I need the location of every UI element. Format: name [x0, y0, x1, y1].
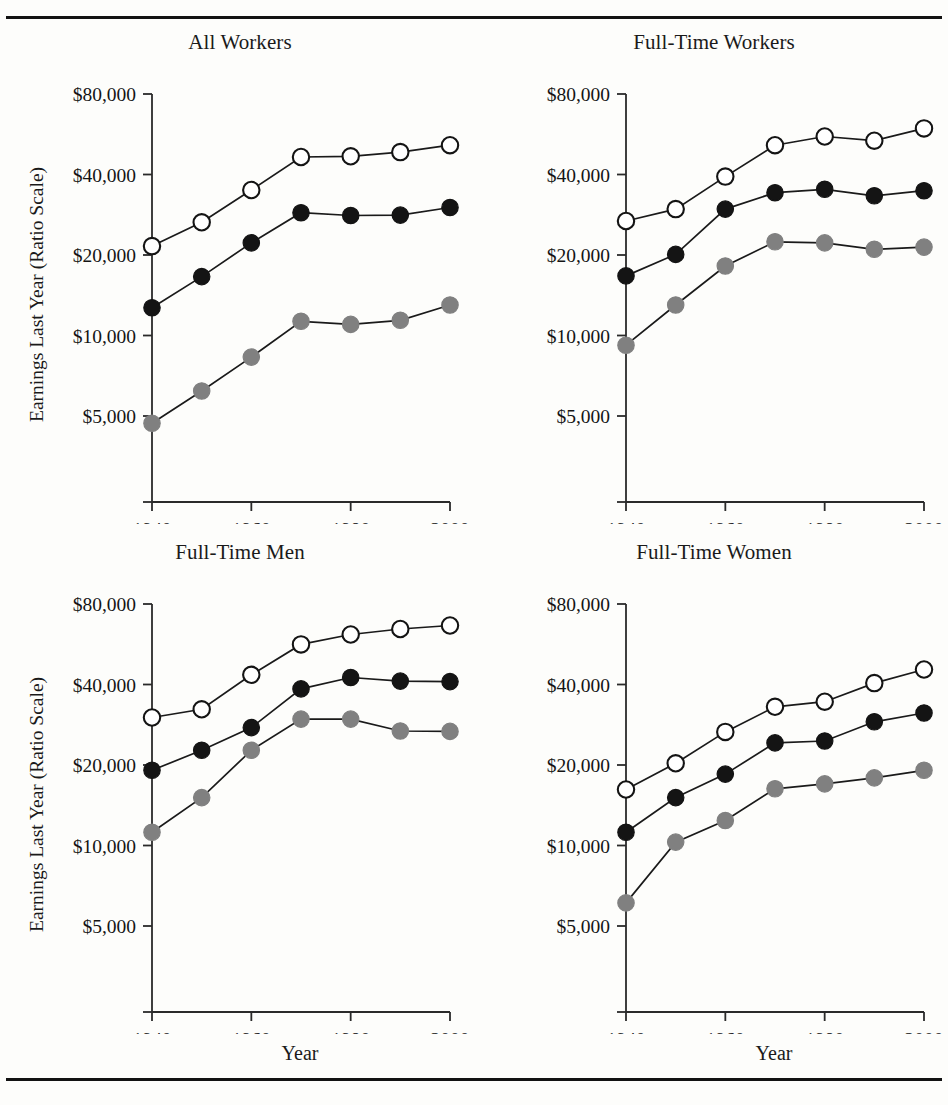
data-point-marker: [866, 675, 882, 691]
plot-area: $80,000$40,000$20,000$10,000$5,000194019…: [40, 54, 474, 524]
data-point-marker: [343, 626, 359, 642]
data-point-marker: [618, 895, 634, 911]
data-point-marker: [144, 824, 160, 840]
data-point-marker: [717, 168, 733, 184]
data-point-marker: [668, 755, 684, 771]
data-point-marker: [392, 312, 408, 328]
data-point-marker: [717, 812, 733, 828]
data-point-marker: [243, 719, 259, 735]
bottom-horizontal-rule: [6, 1078, 942, 1081]
data-point-marker: [668, 834, 684, 850]
y-tick-label: $10,000: [547, 836, 610, 857]
plot-area: $80,000$40,000$20,000$10,000$5,000194019…: [514, 564, 948, 1034]
x-tick-label: 1980: [805, 1029, 844, 1034]
data-point-marker: [767, 735, 783, 751]
x-tick-label: 2000: [431, 1029, 470, 1034]
y-tick-label: $40,000: [73, 675, 136, 696]
data-point-marker: [194, 214, 210, 230]
data-point-marker: [866, 714, 882, 730]
data-point-marker: [442, 199, 458, 215]
x-axis-label: Year: [624, 1042, 924, 1065]
data-point-marker: [817, 733, 833, 749]
data-point-marker: [618, 268, 634, 284]
data-point-marker: [442, 673, 458, 689]
data-point-marker: [717, 258, 733, 274]
y-tick-label: $5,000: [82, 406, 136, 427]
data-point-marker: [618, 213, 634, 229]
data-point-marker: [767, 185, 783, 201]
data-point-marker: [866, 133, 882, 149]
data-point-marker: [392, 723, 408, 739]
data-point-marker: [618, 824, 634, 840]
panel-title: Full-Time Women: [504, 540, 924, 565]
top-horizontal-rule: [6, 16, 942, 19]
x-tick-label: 1940: [607, 519, 646, 524]
data-point-marker: [343, 148, 359, 164]
data-point-marker: [243, 742, 259, 758]
y-tick-label: $5,000: [82, 916, 136, 937]
x-tick-label: 1940: [133, 1029, 172, 1034]
data-point-marker: [767, 137, 783, 153]
y-tick-label: $20,000: [73, 245, 136, 266]
data-point-marker: [668, 789, 684, 805]
y-tick-label: $20,000: [547, 245, 610, 266]
data-point-marker: [343, 711, 359, 727]
y-tick-label: $40,000: [547, 165, 610, 186]
data-point-marker: [144, 300, 160, 316]
y-tick-label: $40,000: [547, 675, 610, 696]
data-point-marker: [194, 701, 210, 717]
data-point-marker: [618, 337, 634, 353]
data-point-marker: [392, 207, 408, 223]
plot-area: $80,000$40,000$20,000$10,000$5,000194019…: [40, 564, 474, 1034]
x-axis-label: Year: [150, 1042, 450, 1065]
y-tick-label: $80,000: [73, 594, 136, 615]
data-point-marker: [817, 235, 833, 251]
data-point-marker: [392, 673, 408, 689]
data-point-marker: [243, 667, 259, 683]
data-point-marker: [392, 144, 408, 160]
data-point-marker: [866, 241, 882, 257]
data-point-marker: [194, 268, 210, 284]
data-point-marker: [144, 238, 160, 254]
chart-svg: $80,000$40,000$20,000$10,000$5,000194019…: [40, 564, 474, 1034]
y-tick-label: $10,000: [73, 836, 136, 857]
chart-svg: $80,000$40,000$20,000$10,000$5,000194019…: [514, 54, 948, 524]
data-point-marker: [618, 781, 634, 797]
panel-full-time-men: Full-Time Men Earnings Last Year (Ratio …: [0, 532, 474, 1072]
x-tick-label: 1960: [706, 519, 745, 524]
data-point-marker: [194, 383, 210, 399]
data-point-marker: [144, 709, 160, 725]
data-point-marker: [668, 297, 684, 313]
data-point-marker: [243, 235, 259, 251]
data-point-marker: [243, 182, 259, 198]
x-tick-label: 1980: [805, 519, 844, 524]
data-point-marker: [717, 724, 733, 740]
panel-full-time-workers: Full-Time Workers $80,000$40,000$20,000$…: [474, 22, 948, 532]
data-point-marker: [916, 661, 932, 677]
data-point-marker: [717, 201, 733, 217]
panel-title: Full-Time Men: [30, 540, 450, 565]
x-tick-label: 1940: [133, 519, 172, 524]
data-point-marker: [442, 617, 458, 633]
data-point-marker: [817, 128, 833, 144]
panel-title: All Workers: [30, 30, 450, 55]
data-point-marker: [293, 711, 309, 727]
data-point-marker: [293, 205, 309, 221]
data-point-marker: [442, 137, 458, 153]
panel-full-time-women: Full-Time Women $80,000$40,000$20,000$10…: [474, 532, 948, 1072]
data-point-marker: [717, 766, 733, 782]
data-point-marker: [194, 789, 210, 805]
x-tick-label: 2000: [905, 1029, 944, 1034]
data-point-marker: [916, 120, 932, 136]
data-point-marker: [916, 239, 932, 255]
data-point-marker: [293, 149, 309, 165]
panel-all-workers: All Workers Earnings Last Year (Ratio Sc…: [0, 22, 474, 532]
plot-area: $80,000$40,000$20,000$10,000$5,000194019…: [514, 54, 948, 524]
data-point-marker: [293, 681, 309, 697]
data-point-marker: [668, 201, 684, 217]
data-point-marker: [144, 762, 160, 778]
x-tick-label: 1980: [331, 519, 370, 524]
data-point-marker: [817, 181, 833, 197]
data-point-marker: [392, 621, 408, 637]
panel-title: Full-Time Workers: [504, 30, 924, 55]
